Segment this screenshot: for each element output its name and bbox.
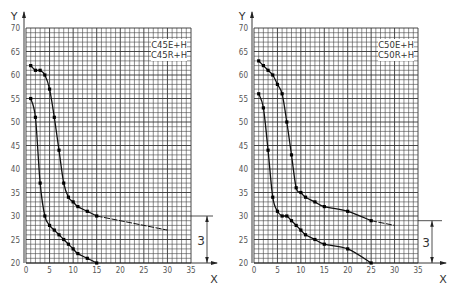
data-point: [48, 88, 51, 91]
data-point: [370, 261, 373, 264]
data-point: [43, 73, 46, 76]
data-point: [266, 149, 269, 152]
x-tick-label: 10: [69, 266, 79, 275]
data-point: [29, 97, 32, 100]
data-point: [285, 214, 288, 217]
y-tick-label: 70: [239, 24, 249, 33]
x-tick-label: 30: [163, 266, 173, 275]
data-point: [72, 200, 75, 203]
x-axis-label: X: [210, 273, 218, 286]
data-point: [276, 210, 279, 213]
data-point: [57, 149, 60, 152]
x-tick-label: 0: [24, 266, 29, 275]
legend-entry: C50R+H: [378, 50, 414, 60]
data-point: [262, 64, 265, 67]
y-tick-label: 25: [11, 236, 20, 245]
data-point: [271, 196, 274, 199]
y-tick-label: 55: [239, 95, 248, 104]
y-tick-label: 35: [11, 189, 20, 198]
y-tick-label: 45: [11, 142, 20, 151]
legend-entry: C45E+H: [151, 40, 187, 50]
data-point: [346, 247, 349, 250]
y-tick-label: 55: [11, 95, 20, 104]
x-tick-label: 15: [320, 266, 329, 275]
data-point: [281, 92, 284, 95]
dimension-arrow-up-icon: [430, 221, 434, 227]
data-point: [43, 214, 46, 217]
x-tick-label: 5: [275, 266, 280, 275]
data-point: [299, 229, 302, 232]
dimension-arrow-up-icon: [205, 216, 209, 222]
y-tick-label: 30: [11, 212, 21, 221]
y-tick-label: 40: [239, 165, 249, 174]
data-point: [57, 233, 60, 236]
data-point: [29, 64, 32, 67]
data-point: [67, 196, 70, 199]
data-point: [290, 219, 293, 222]
data-point: [299, 191, 302, 194]
data-point: [72, 247, 75, 250]
y-axis-label: Y: [238, 10, 246, 23]
y-tick-label: 65: [11, 48, 20, 57]
y-tick-label: 60: [11, 71, 21, 80]
y-axis-label: Y: [10, 10, 18, 23]
data-point: [370, 219, 373, 222]
data-point: [86, 257, 89, 260]
grid: [254, 28, 418, 263]
data-point: [346, 210, 349, 213]
x-tick-label: 30: [390, 266, 400, 275]
data-point: [323, 205, 326, 208]
chart-c45: YX051015202530352025303540455055606570C4…: [10, 10, 219, 286]
dimension-label: 3: [197, 234, 205, 248]
data-point: [295, 224, 298, 227]
x-tick-label: 25: [367, 266, 376, 275]
y-tick-label: 30: [239, 212, 249, 221]
data-point: [304, 233, 307, 236]
x-axis-arrow-icon: [211, 261, 218, 265]
x-tick-label: 25: [139, 266, 148, 275]
x-tick-label: 10: [296, 266, 306, 275]
y-axis-arrow-icon: [22, 11, 26, 18]
data-point: [257, 59, 260, 62]
charts-canvas: YX051015202530352025303540455055606570C4…: [0, 0, 449, 292]
data-point: [304, 196, 307, 199]
dimension-arrow-down-icon: [430, 257, 434, 263]
data-point: [323, 243, 326, 246]
data-point: [271, 73, 274, 76]
x-tick-label: 20: [116, 266, 126, 275]
data-point: [39, 182, 42, 185]
data-point: [95, 261, 98, 264]
dimension-label: 3: [422, 236, 430, 250]
legend-entry: C45R+H: [151, 50, 187, 60]
y-tick-label: 50: [239, 118, 249, 127]
x-tick-label: 20: [343, 266, 353, 275]
data-point: [290, 153, 293, 156]
y-tick-label: 65: [239, 48, 248, 57]
data-point: [257, 92, 260, 95]
data-point: [313, 200, 316, 203]
y-tick-label: 45: [239, 142, 248, 151]
x-tick-label: 5: [47, 266, 52, 275]
data-point: [67, 243, 70, 246]
data-point: [266, 69, 269, 72]
data-point: [285, 120, 288, 123]
data-point: [34, 69, 37, 72]
y-axis-arrow-icon: [250, 11, 254, 18]
x-tick-label: 15: [92, 266, 101, 275]
y-tick-label: 50: [11, 118, 21, 127]
x-axis-label: X: [439, 273, 447, 286]
y-tick-label: 60: [239, 71, 249, 80]
y-tick-label: 40: [11, 165, 21, 174]
legend-entry: C50E+H: [378, 40, 414, 50]
dimension-arrow-down-icon: [205, 257, 209, 263]
y-tick-label: 20: [239, 259, 249, 268]
data-point: [53, 116, 56, 119]
data-point: [313, 238, 316, 241]
y-tick-label: 35: [239, 189, 248, 198]
data-point: [76, 252, 79, 255]
y-tick-label: 70: [11, 24, 21, 33]
data-point: [48, 224, 51, 227]
data-point: [95, 214, 98, 217]
data-point: [62, 238, 65, 241]
data-point: [281, 214, 284, 217]
